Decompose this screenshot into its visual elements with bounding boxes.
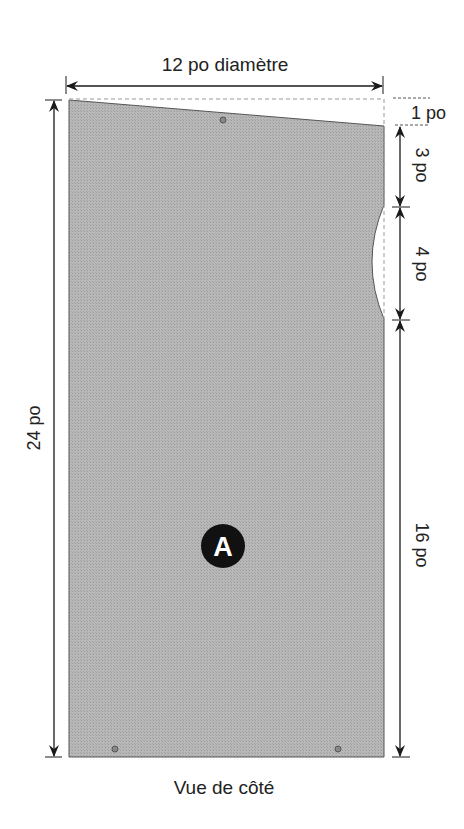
screw-hole xyxy=(335,746,341,752)
side-view-diagram: A 12 po diamètre 1 po 24 po 3 po 4 po 16… xyxy=(0,0,464,829)
upper-gap-label: 3 po xyxy=(412,147,432,182)
cutout-label: 4 po xyxy=(412,246,432,281)
height-label: 24 po xyxy=(24,405,44,450)
lower-label: 16 po xyxy=(412,522,432,567)
view-title: Vue de côté xyxy=(174,777,275,798)
screw-hole xyxy=(220,117,226,123)
top-slope-label: 1 po xyxy=(411,103,446,123)
width-label: 12 po diamètre xyxy=(162,54,289,75)
panel-shape xyxy=(69,100,384,757)
part-label: A xyxy=(213,532,233,562)
screw-hole xyxy=(112,746,118,752)
